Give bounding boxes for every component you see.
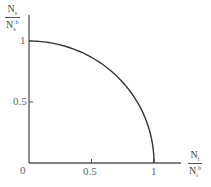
- y-tick-label-half: 0.5: [13, 95, 27, 107]
- origin-label: 0: [20, 164, 26, 176]
- x-label-den-sub: t: [196, 172, 198, 178]
- x-label-num-sub: t: [198, 156, 200, 162]
- y-label-num-sub: s: [15, 10, 17, 16]
- x-axis-label: Nt Ntb: [188, 150, 202, 178]
- y-label-num: N: [8, 3, 15, 14]
- y-axis-label: Ns Nsb: [5, 4, 20, 32]
- y-label-den-sub: s: [13, 26, 15, 32]
- x-label-num: N: [191, 149, 198, 160]
- x-tick-label-half: 0.5: [83, 165, 97, 177]
- chart-canvas: [0, 0, 211, 187]
- x-label-den-sup: b: [198, 165, 201, 171]
- y-tick-label-one: 1: [20, 34, 26, 46]
- x-tick-label-one: 1: [151, 165, 157, 177]
- y-label-den-sup: b: [16, 19, 19, 25]
- boundary-curve: [29, 41, 154, 163]
